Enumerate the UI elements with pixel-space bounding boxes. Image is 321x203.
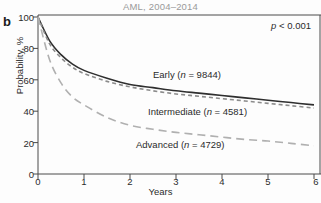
plot-area [0,0,321,203]
legend-inter-value: = 4581) [212,106,247,117]
legend-label-intermediate: Intermediate (n = 4581) [148,106,247,117]
curve-advanced [38,17,314,146]
axis-frame [38,15,321,174]
x-axis-ticks [38,174,314,179]
legend-early-name: Early [153,69,175,80]
curve-intermediate [38,17,314,108]
legend-early-value: = 9844) [186,69,221,80]
legend-adv-value: = 4729) [189,139,224,150]
legend-label-advanced: Advanced (n = 4729) [136,139,225,150]
legend-inter-name: Intermediate [148,106,201,117]
legend-label-early: Early (n = 9844) [153,69,221,80]
figure-panel: AML, 2004–2014 b p < 0.001 Probability, … [0,0,321,203]
curve-early [38,17,314,105]
legend-adv-name: Advanced [136,139,178,150]
y-axis-ticks [33,17,38,174]
